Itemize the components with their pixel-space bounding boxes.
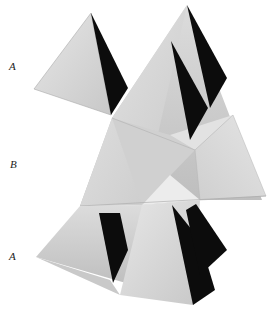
top-left-tetrahedron bbox=[34, 13, 128, 115]
label-b: B bbox=[10, 158, 17, 170]
label-a-bottom: A bbox=[9, 250, 16, 262]
bottom-tetrahedra bbox=[36, 200, 227, 305]
tetrahedra-figure bbox=[0, 0, 275, 315]
label-a-top: A bbox=[9, 60, 16, 72]
